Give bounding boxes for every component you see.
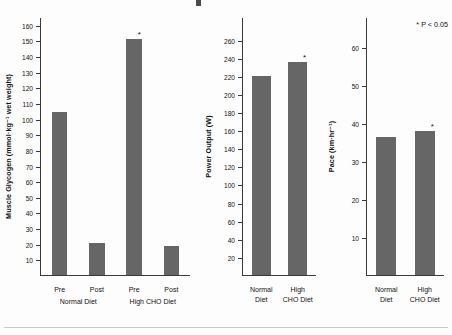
y-tick-label: 120 — [22, 85, 33, 92]
cropped-text-mark — [196, 0, 201, 6]
bar — [164, 246, 180, 275]
y-axis-title-power-text: Power Output (W) — [204, 115, 213, 177]
bar — [288, 62, 307, 275]
panel-muscle-glycogen: Muscle Glycogen (mmol·kg⁻¹ wet weight) 1… — [0, 12, 200, 322]
y-tick-label: 20 — [228, 254, 235, 261]
panel-pace: Pace (km·hr⁻¹) * P < 0.05 605040302010 *… — [324, 12, 452, 322]
y-tick-label: 30 — [352, 159, 359, 166]
x-axis-group-labels-glycogen: Normal DietHigh CHO Diet — [41, 298, 190, 312]
bar — [415, 131, 435, 275]
y-tick-label: 140 — [22, 54, 33, 61]
bar-slot: * — [406, 18, 445, 275]
y-tick-label: 20 — [352, 197, 359, 204]
y-tick-label: 180 — [224, 110, 235, 117]
y-axis-title-pace: Pace (km·hr⁻¹) — [324, 12, 340, 280]
y-tick-label: 260 — [224, 37, 235, 44]
significance-asterisk: * — [138, 32, 141, 38]
y-tick-label: 50 — [352, 83, 359, 90]
y-tick-label: 80 — [26, 147, 33, 154]
y-tick-label: 240 — [224, 55, 235, 62]
x-axis-label: HighCHO Diet — [406, 280, 445, 320]
y-tick-label: 60 — [26, 179, 33, 186]
x-axis-labels-pace: NormalDietHighCHO Diet — [367, 280, 444, 320]
y-tick-label: 150 — [22, 38, 33, 45]
bar-wrapper: * — [126, 18, 142, 275]
y-tick-label: 60 — [352, 45, 359, 52]
panel-power-output: Power Output (W) 26024022020018016014012… — [200, 12, 324, 322]
y-tick-label: 80 — [228, 200, 235, 207]
bar-slot: * — [280, 18, 317, 275]
y-tick-label: 60 — [228, 218, 235, 225]
y-tick-label: 100 — [22, 116, 33, 123]
bar-group-pace: * — [367, 18, 444, 275]
y-tick-label: 110 — [22, 101, 33, 108]
bar-wrapper — [376, 18, 396, 275]
y-tick-label: 10 — [352, 235, 359, 242]
y-tick-label: 70 — [26, 163, 33, 170]
y-tick-label: 10 — [26, 257, 33, 264]
plot-area-pace: 605040302010 * — [366, 18, 444, 276]
x-axis-group-label: Normal Diet — [41, 298, 116, 312]
y-tick-label: 130 — [22, 69, 33, 76]
figure-canvas: Muscle Glycogen (mmol·kg⁻¹ wet weight) 1… — [0, 0, 452, 335]
bar — [252, 76, 271, 275]
significance-asterisk: * — [303, 55, 306, 61]
x-axis-line-power — [242, 275, 316, 276]
significance-asterisk: * — [431, 124, 434, 130]
x-axis-label: HighCHO Diet — [280, 280, 317, 320]
bar-slot — [78, 18, 115, 275]
y-tick-label: 40 — [228, 236, 235, 243]
y-axis-title-glycogen-text: Muscle Glycogen (mmol·kg⁻¹ wet weight) — [4, 74, 13, 219]
plot-area-glycogen: 160150140130120110100908070605040302010 … — [40, 18, 190, 276]
bar-group-glycogen: * — [41, 18, 190, 275]
bar-wrapper — [89, 18, 105, 275]
bar — [376, 137, 396, 275]
y-tick-label: 100 — [224, 182, 235, 189]
bar-slot — [367, 18, 406, 275]
bar-wrapper — [164, 18, 180, 275]
y-axis-title-glycogen: Muscle Glycogen (mmol·kg⁻¹ wet weight) — [0, 12, 16, 280]
x-axis-label: NormalDiet — [367, 280, 406, 320]
bar-wrapper — [252, 18, 271, 275]
bar-slot — [243, 18, 280, 275]
y-tick-label: 200 — [224, 91, 235, 98]
y-tick-label: 160 — [224, 128, 235, 135]
bar-group-power: * — [243, 18, 316, 275]
x-axis-labels-power: NormalDietHighCHO Diet — [243, 280, 316, 320]
x-axis-line-glycogen — [40, 275, 190, 276]
bar-slot: * — [116, 18, 153, 275]
y-tick-label: 140 — [224, 146, 235, 153]
bar — [52, 112, 68, 275]
y-tick-label: 40 — [26, 210, 33, 217]
bar — [89, 243, 105, 275]
y-tick-label: 40 — [352, 121, 359, 128]
x-axis-group-label: High CHO Diet — [116, 298, 191, 312]
y-tick-label: 30 — [26, 226, 33, 233]
bar-wrapper: * — [415, 18, 435, 275]
x-axis-line-pace — [366, 275, 444, 276]
y-tick-label: 160 — [22, 22, 33, 29]
bar — [126, 39, 142, 275]
y-tick-label: 220 — [224, 73, 235, 80]
x-axis-label: NormalDiet — [243, 280, 280, 320]
plot-area-power: 26024022020018016014012010080604020 * — [242, 18, 316, 276]
y-tick-label: 20 — [26, 241, 33, 248]
bar-wrapper — [52, 18, 68, 275]
y-tick-label: 120 — [224, 164, 235, 171]
panel-row: Muscle Glycogen (mmol·kg⁻¹ wet weight) 1… — [0, 12, 452, 322]
bottom-divider — [4, 327, 448, 328]
y-tick-label: 90 — [26, 132, 33, 139]
y-tick-label: 50 — [26, 194, 33, 201]
bar-slot — [41, 18, 78, 275]
y-axis-title-pace-text: Pace (km·hr⁻¹) — [328, 120, 337, 171]
bar-wrapper: * — [288, 18, 307, 275]
bar-slot — [153, 18, 190, 275]
y-axis-title-power: Power Output (W) — [200, 12, 216, 280]
